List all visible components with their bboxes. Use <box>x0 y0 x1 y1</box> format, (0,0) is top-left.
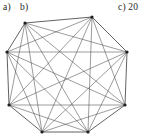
graph-edge <box>25 23 127 52</box>
graph-edge <box>9 105 42 132</box>
graph-edge <box>88 17 92 132</box>
figure-root: a) b) c) 20 <box>0 0 153 136</box>
graph-vertex <box>125 50 128 53</box>
graph-vertex <box>40 130 43 133</box>
graph-edge <box>9 105 88 132</box>
graph-edge <box>42 105 125 132</box>
graph-edge <box>7 52 9 105</box>
graph-edge <box>88 52 127 132</box>
graph-vertex <box>86 130 89 133</box>
graph-edge <box>25 17 92 23</box>
graph-edge <box>88 105 125 132</box>
graph-vertex <box>23 21 26 24</box>
graph-edge <box>125 52 127 105</box>
graph-edge <box>42 52 127 132</box>
graph-vertex <box>5 50 8 53</box>
graph-vertex <box>90 15 93 18</box>
graph-vertex <box>7 103 10 106</box>
graph-edge <box>7 52 42 132</box>
graph-diagram <box>0 0 153 136</box>
graph-vertex <box>123 103 126 106</box>
graph-edge <box>7 52 125 105</box>
graph-edge <box>25 23 88 132</box>
